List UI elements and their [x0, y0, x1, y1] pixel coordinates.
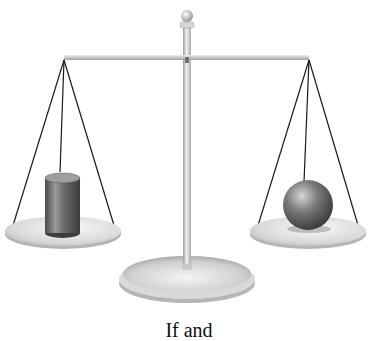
scale-beam [64, 55, 309, 63]
pole-knob [181, 10, 193, 22]
scale-pole [180, 10, 194, 270]
figure-caption: If and [0, 318, 378, 341]
cylinder-object [45, 173, 80, 238]
